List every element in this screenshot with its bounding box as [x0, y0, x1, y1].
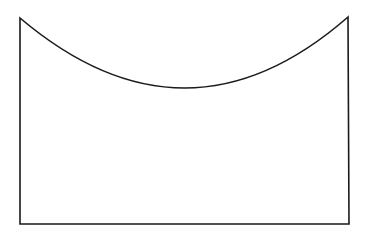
diagram-canvas [0, 0, 371, 233]
concave-shape-outline [20, 17, 349, 224]
